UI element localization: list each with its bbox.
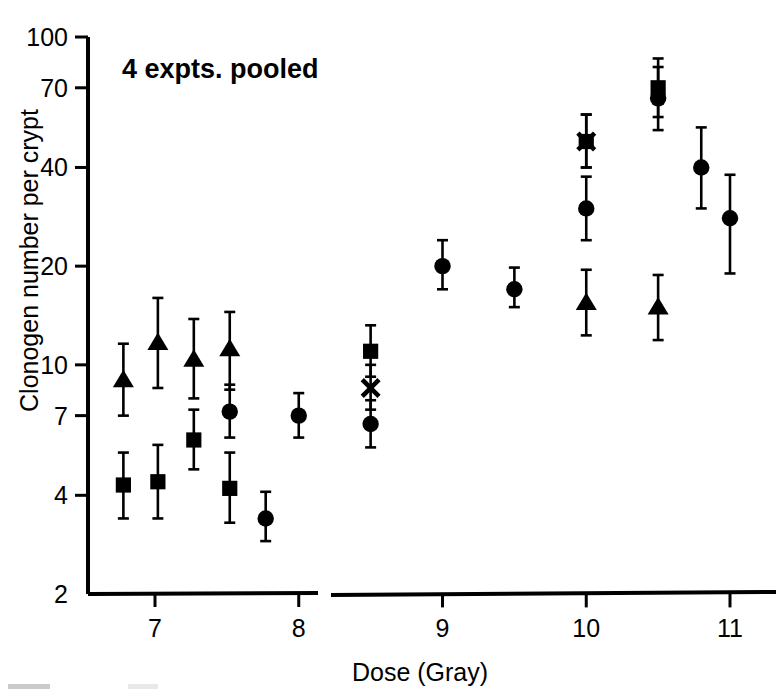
marker-circle bbox=[362, 416, 378, 432]
x-tick-label-10: 10 bbox=[572, 614, 600, 642]
marker-square bbox=[150, 474, 165, 489]
marker-triangle bbox=[113, 370, 134, 388]
y-tick-label-7: 7 bbox=[54, 402, 68, 430]
figure-container: 100704020107427891011Dose (Gray)Clonogen… bbox=[0, 0, 776, 693]
y-tick-label-10: 10 bbox=[40, 351, 68, 379]
x-tick-label-8: 8 bbox=[292, 614, 306, 642]
caption-edge-artifact bbox=[8, 684, 258, 689]
y-tick-label-70: 70 bbox=[40, 74, 68, 102]
marker-square bbox=[363, 344, 378, 359]
marker-circle bbox=[506, 281, 522, 297]
x-tick-label-7: 7 bbox=[148, 614, 162, 642]
marker-triangle bbox=[183, 349, 204, 367]
marker-triangle bbox=[648, 297, 669, 315]
marker-square bbox=[116, 477, 131, 492]
marker-square bbox=[222, 481, 237, 496]
scatter-plot: 100704020107427891011Dose (Gray)Clonogen… bbox=[0, 0, 776, 693]
x-axis-line-left bbox=[88, 593, 318, 594]
y-tick-label-2: 2 bbox=[54, 580, 68, 608]
panel-title: 4 expts. pooled bbox=[122, 54, 319, 84]
marker-circle bbox=[291, 407, 307, 423]
marker-circle bbox=[257, 510, 273, 526]
x-tick-label-9: 9 bbox=[436, 614, 450, 642]
y-tick-label-20: 20 bbox=[40, 252, 68, 280]
marker-triangle bbox=[576, 292, 597, 310]
marker-triangle bbox=[219, 339, 240, 357]
x-axis-title: Dose (Gray) bbox=[352, 658, 488, 686]
marker-circle bbox=[693, 159, 709, 175]
marker-circle bbox=[434, 258, 450, 274]
marker-circle bbox=[722, 210, 738, 226]
y-tick-label-4: 4 bbox=[54, 481, 68, 509]
marker-square bbox=[186, 432, 201, 447]
x-tick-label-11: 11 bbox=[717, 614, 743, 642]
x-axis-line-right bbox=[331, 592, 776, 595]
marker-triangle bbox=[147, 332, 168, 350]
marker-circle bbox=[650, 90, 666, 106]
marker-circle bbox=[578, 200, 594, 216]
y-axis-title: Clonogen number per crypt bbox=[15, 109, 43, 412]
marker-circle bbox=[222, 403, 238, 419]
y-tick-label-100: 100 bbox=[26, 23, 68, 51]
y-tick-label-40: 40 bbox=[40, 153, 68, 181]
